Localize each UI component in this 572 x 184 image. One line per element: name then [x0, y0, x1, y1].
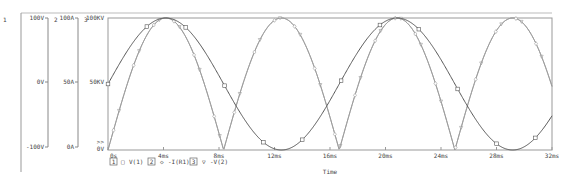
- chart-canvas: 1 100V 0V -100V 2 100A 50A 0A 3 100KV 50…: [0, 0, 572, 184]
- y-axis-2: 2 100A 50A 0A: [54, 14, 78, 150]
- axis-2-min-label: 0A: [67, 143, 75, 150]
- plot-traces: [106, 16, 552, 150]
- svg-text:2: 2: [150, 158, 154, 165]
- square-marker-icon: [495, 142, 499, 146]
- square-marker-icon: [184, 26, 188, 30]
- axis-2-max-label: 100A: [60, 14, 75, 21]
- square-marker-icon: [106, 82, 110, 86]
- axis-3-max-label: 100KV: [86, 14, 104, 21]
- diamond-marker-icon: ◇: [160, 158, 164, 165]
- square-marker-icon: [223, 84, 227, 88]
- legend-label-v1: V(1): [129, 158, 143, 165]
- legend-item-v2: 3 ▽ -V(2): [190, 158, 228, 165]
- diamond-marker-icon: [514, 17, 517, 21]
- axis-3-mid-label: 50KV: [90, 78, 105, 85]
- legend-label-ir1: -I(R1): [168, 158, 190, 165]
- axis-3-min-label: 0V: [97, 145, 105, 152]
- trace-v2: [108, 18, 552, 150]
- square-marker-icon: [145, 25, 149, 29]
- diamond-marker-icon: [273, 18, 276, 22]
- axis-1-min-label: -100V: [26, 143, 44, 150]
- svg-text:1: 1: [112, 158, 116, 165]
- diamond-marker-icon: [313, 66, 316, 70]
- legend-item-ir1: 2 ◇ -I(R1): [148, 158, 190, 165]
- axis-1-id: 1: [3, 16, 7, 23]
- triangle-marker-icon: ▽: [202, 158, 206, 165]
- y-axis-1: 1 100V 0V -100V: [3, 14, 48, 150]
- trace-ir1: [108, 18, 552, 150]
- svg-text:3: 3: [192, 158, 196, 165]
- x-tick-label: 20ms: [378, 152, 393, 159]
- axis-3-marker: >>: [97, 138, 105, 145]
- axis-2-id: 2: [54, 16, 58, 23]
- diamond-marker-icon: [132, 63, 135, 67]
- square-marker-icon: □: [121, 158, 125, 165]
- x-tick-label: 24ms: [434, 152, 449, 159]
- axis-1-mid-label: 0V: [37, 78, 45, 85]
- square-marker-icon: [417, 27, 421, 31]
- square-marker-icon: [339, 79, 343, 83]
- diamond-marker-icon: [333, 132, 336, 136]
- trace-v1: [108, 18, 552, 150]
- y-axis-3: 3 100KV 50KV >> 0V: [84, 14, 104, 152]
- diamond-marker-icon: [434, 82, 437, 86]
- x-tick-label: 12ms: [267, 152, 282, 159]
- legend-label-v2: -V(2): [210, 158, 228, 165]
- square-marker-icon: [378, 23, 382, 27]
- square-marker-icon: [456, 87, 460, 91]
- axis-2-mid-label: 50A: [63, 78, 74, 85]
- axis-1-max-label: 100V: [30, 14, 45, 21]
- diamond-marker-icon: [213, 114, 216, 118]
- x-axis-label: Time: [323, 168, 338, 175]
- plot-area: [108, 18, 552, 150]
- diamond-marker-icon: [353, 93, 356, 97]
- legend-item-v1: 1 □ V(1): [110, 158, 143, 165]
- square-marker-icon: [262, 140, 266, 144]
- x-tick-label: 16ms: [323, 152, 338, 159]
- diamond-marker-icon: [112, 128, 115, 132]
- diamond-marker-icon: [233, 110, 236, 114]
- x-tick-label: 32ms: [545, 152, 560, 159]
- legend: 1 □ V(1) 2 ◇ -I(R1) 3 ▽ -V(2): [110, 158, 228, 165]
- x-tick-label: 28ms: [489, 152, 504, 159]
- square-marker-icon: [300, 138, 304, 142]
- square-marker-icon: [534, 136, 538, 140]
- diamond-marker-icon: [474, 77, 477, 81]
